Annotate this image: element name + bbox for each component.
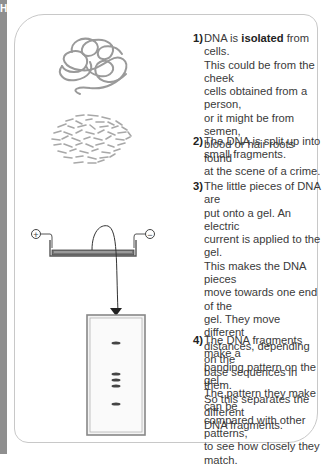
step-number: 4) — [193, 334, 203, 347]
chapter-tab: H — [0, 0, 7, 454]
step-number: 3) — [193, 180, 203, 193]
electrophoresis-apparatus-icon: + − — [28, 222, 158, 312]
step-number: 1) — [193, 32, 203, 45]
tangled-dna-icon — [50, 30, 140, 100]
dna-fragments-icon — [46, 112, 136, 168]
negative-terminal: − — [147, 230, 152, 240]
positive-terminal: + — [33, 230, 38, 240]
chapter-letter: H — [0, 3, 7, 15]
step-text: The DNA is split up into small fragments… — [193, 135, 323, 162]
step-number: 2) — [193, 135, 203, 148]
gel-banding-pattern — [86, 314, 146, 436]
step-2: 2) The DNA is split up into small fragme… — [193, 135, 323, 162]
highlight-term: isolated — [241, 32, 283, 44]
step-4: 4) The DNA fragments make a banding patt… — [193, 334, 323, 467]
step-text: The DNA fragments make a banding pattern… — [193, 334, 323, 467]
